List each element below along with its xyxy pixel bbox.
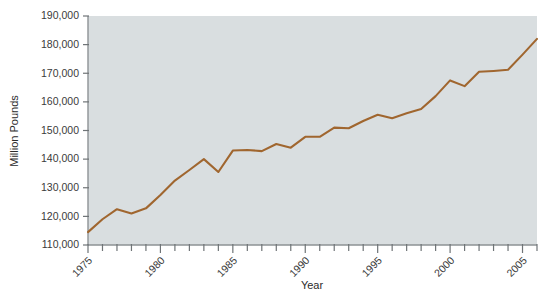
- y-tick-label: 130,000: [41, 181, 79, 193]
- y-axis-title: Million Pounds: [8, 95, 20, 167]
- y-tick-label: 120,000: [41, 210, 79, 222]
- chart-svg: 110,000120,000130,000140,000150,000160,0…: [0, 0, 548, 304]
- y-tick-label: 190,000: [41, 9, 79, 21]
- y-axis-tick-labels: 110,000120,000130,000140,000150,000160,0…: [41, 9, 79, 250]
- plot-area-background: [88, 16, 537, 245]
- y-tick-label: 180,000: [41, 38, 79, 50]
- y-tick-label: 150,000: [41, 124, 79, 136]
- x-axis-title: Year: [301, 279, 324, 291]
- y-tick-label: 160,000: [41, 95, 79, 107]
- line-chart-figure: 110,000120,000130,000140,000150,000160,0…: [0, 0, 548, 304]
- y-tick-label: 110,000: [42, 238, 79, 250]
- y-tick-label: 140,000: [41, 152, 79, 164]
- y-tick-label: 170,000: [41, 67, 79, 79]
